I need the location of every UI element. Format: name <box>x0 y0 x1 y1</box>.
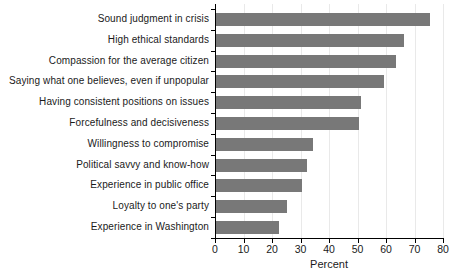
x-tick-label: 0 <box>212 243 218 255</box>
x-tick-label: 10 <box>238 243 250 255</box>
category-label: Experience in public office <box>90 175 209 196</box>
bar <box>216 75 384 88</box>
bar-row: Compassion for the average citizen <box>0 51 443 72</box>
category-label: Saying what one believes, even if unpopu… <box>9 71 209 92</box>
bar-row: Experience in public office <box>0 175 443 196</box>
bar-row: High ethical standards <box>0 30 443 51</box>
category-label: Experience in Washington <box>91 217 209 238</box>
bar-row: Forcefulness and decisiveness <box>0 113 443 134</box>
x-tick-label: 80 <box>437 243 449 255</box>
bar <box>216 55 396 68</box>
category-label: High ethical standards <box>108 30 209 51</box>
x-tick-label: 50 <box>352 243 364 255</box>
gridline <box>443 4 444 238</box>
bar <box>216 96 361 109</box>
x-axis-title: Percent <box>310 258 348 270</box>
category-label: Loyalty to one's party <box>113 196 209 217</box>
x-tick-label: 70 <box>409 243 421 255</box>
bar-chart: Sound judgment in crisisHigh ethical sta… <box>0 0 453 278</box>
x-tick-label: 20 <box>266 243 278 255</box>
bar-row: Political savvy and know-how <box>0 155 443 176</box>
bar-row: Loyalty to one's party <box>0 196 443 217</box>
category-label: Political savvy and know-how <box>76 155 209 176</box>
bar <box>216 117 359 130</box>
bar <box>216 34 404 47</box>
category-label: Willingness to compromise <box>88 134 209 155</box>
bar-row: Willingness to compromise <box>0 134 443 155</box>
x-tick-label: 40 <box>323 243 335 255</box>
bar-row: Saying what one believes, even if unpopu… <box>0 71 443 92</box>
bar <box>216 138 313 151</box>
bar-row: Having consistent positions on issues <box>0 92 443 113</box>
bar-row: Experience in Washington <box>0 217 443 238</box>
x-tick-label: 30 <box>295 243 307 255</box>
bar <box>216 221 279 234</box>
bar <box>216 159 307 172</box>
bar-row: Sound judgment in crisis <box>0 9 443 30</box>
category-label: Compassion for the average citizen <box>49 51 209 72</box>
category-label: Sound judgment in crisis <box>98 9 209 30</box>
bar <box>216 179 302 192</box>
category-label: Forcefulness and decisiveness <box>69 113 209 134</box>
bar <box>216 13 430 26</box>
category-label: Having consistent positions on issues <box>39 92 209 113</box>
x-tick-label: 60 <box>380 243 392 255</box>
bar <box>216 200 287 213</box>
